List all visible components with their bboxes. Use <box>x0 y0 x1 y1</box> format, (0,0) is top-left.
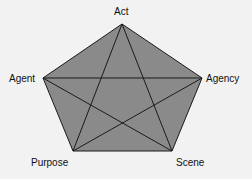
node-label-act: Act <box>114 6 128 17</box>
node-label-agency: Agency <box>206 73 239 84</box>
pentagon-shape <box>43 24 202 151</box>
node-label-agent: Agent <box>9 73 35 84</box>
node-label-scene: Scene <box>176 157 204 168</box>
pentad-diagram <box>0 0 252 179</box>
node-label-purpose: Purpose <box>31 157 68 168</box>
